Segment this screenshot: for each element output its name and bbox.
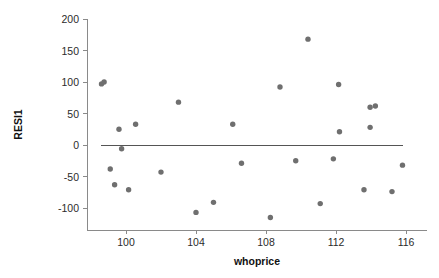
- data-point: [101, 79, 106, 84]
- data-point: [331, 156, 336, 161]
- y-tick-label: 100: [61, 76, 79, 88]
- data-point: [305, 36, 310, 41]
- data-point: [277, 84, 282, 89]
- data-point: [367, 125, 372, 130]
- y-axis-tick-labels: 200150100500-50-100: [58, 13, 79, 214]
- x-axis-group: 100104108112116: [87, 230, 427, 248]
- data-point: [116, 127, 121, 132]
- data-point: [108, 166, 113, 171]
- x-tick-label: 104: [187, 236, 205, 248]
- y-axis-ticks: [83, 19, 87, 208]
- data-point: [133, 122, 138, 127]
- data-points-group: [99, 36, 405, 220]
- data-point: [176, 99, 181, 104]
- data-point: [119, 146, 124, 151]
- data-point: [230, 122, 235, 127]
- y-tick-label: 0: [73, 139, 79, 151]
- data-point: [389, 189, 394, 194]
- data-point: [193, 210, 198, 215]
- y-tick-label: 150: [61, 45, 79, 57]
- y-tick-label: 50: [67, 108, 79, 120]
- x-axis-title: whoprice: [233, 255, 280, 267]
- scatter-plot-figure: 200150100500-50-100 100104108112116 whop…: [0, 0, 439, 278]
- data-point: [239, 161, 244, 166]
- data-point: [361, 187, 366, 192]
- x-axis-tick-labels: 100104108112116: [117, 236, 414, 248]
- data-point: [367, 105, 372, 110]
- y-axis-group: 200150100500-50-100: [58, 13, 87, 230]
- x-tick-label: 100: [117, 236, 135, 248]
- plot-canvas: 200150100500-50-100 100104108112116 whop…: [0, 0, 439, 278]
- data-point: [158, 169, 163, 174]
- y-tick-label: 200: [61, 13, 79, 25]
- y-axis-title: RESI1: [12, 109, 24, 140]
- data-point: [112, 182, 117, 187]
- x-tick-label: 108: [257, 236, 275, 248]
- x-tick-label: 112: [328, 236, 345, 248]
- data-point: [373, 103, 378, 108]
- data-point: [336, 82, 341, 87]
- x-axis-ticks: [126, 230, 406, 234]
- data-point: [126, 187, 131, 192]
- x-tick-label: 116: [398, 236, 415, 248]
- data-point: [268, 215, 273, 220]
- data-point: [318, 201, 323, 206]
- data-point: [211, 200, 216, 205]
- data-point: [400, 162, 405, 167]
- data-point: [337, 129, 342, 134]
- y-tick-label: -50: [64, 171, 79, 183]
- data-point: [293, 158, 298, 163]
- y-tick-label: -100: [58, 202, 79, 214]
